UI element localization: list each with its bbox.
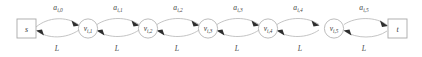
graph-diagram: s vi,1 vi,2 vi,3 vi,4	[0, 0, 422, 57]
node-v4[interactable]: vi,4	[258, 19, 277, 38]
arrowhead-right-6	[380, 21, 388, 28]
backward-edge-labels-group: L L L L L L	[54, 44, 366, 53]
backward-edge-label-4: L	[297, 44, 302, 53]
source-node-label: s	[25, 25, 28, 34]
node-v3[interactable]: vi,3	[198, 19, 217, 38]
sink-node[interactable]: t	[388, 19, 407, 38]
backward-edge-label-1: L	[114, 44, 119, 53]
forward-edge-s-v1	[36, 19, 79, 27]
arrowhead-right-5	[312, 21, 320, 27]
forward-edge-label-0: ai,0	[53, 3, 63, 13]
graph-canvas: s vi,1 vi,2 vi,3 vi,4	[0, 0, 422, 57]
node-v2[interactable]: vi,2	[138, 19, 157, 38]
forward-edge-label-2: ai,2	[173, 3, 183, 13]
arrowhead-right-4	[252, 21, 260, 27]
backward-edge-label-0: L	[54, 44, 59, 53]
node-v1[interactable]: vi,1	[78, 19, 97, 38]
arrowhead-left-6	[344, 30, 352, 36]
backward-edge-label-5: L	[361, 44, 366, 53]
backward-edge-label-2: L	[174, 44, 179, 53]
arrowhead-right-1	[72, 21, 80, 27]
forward-edge-label-5: ai,5	[359, 3, 369, 13]
forward-edge-label-4: ai,4	[293, 3, 303, 13]
arrowhead-left-1	[36, 30, 44, 36]
source-node[interactable]: s	[17, 19, 36, 38]
node-v5[interactable]: vi,5	[324, 19, 343, 38]
forward-edge-label-3: ai,3	[233, 3, 243, 13]
forward-edge-label-1: ai,1	[113, 3, 123, 13]
arrowhead-right-3	[192, 21, 200, 27]
backward-edge-label-3: L	[234, 44, 239, 53]
arrowhead-right-2	[132, 21, 140, 27]
forward-edge-labels-group: ai,0 ai,1 ai,2 ai,3 ai,4 ai,5	[53, 3, 369, 13]
